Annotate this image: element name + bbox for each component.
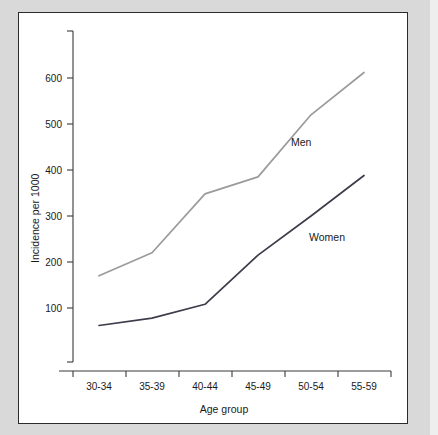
x-tick-label-55-59: 55-59 <box>351 381 377 392</box>
series-annotation-women: Women <box>309 231 345 243</box>
y-tick-label-300: 300 <box>45 211 62 222</box>
series-line-women <box>99 176 364 326</box>
screenshot-page: 600 500 400 300 200 100 Incidence per 10… <box>0 0 438 435</box>
y-tick-label-100: 100 <box>45 303 62 314</box>
y-tick-label-200: 200 <box>45 257 62 268</box>
series-annotation-men: Men <box>291 136 312 148</box>
y-tick-label-500: 500 <box>45 119 62 130</box>
line-chart: 600 500 400 300 200 100 Incidence per 10… <box>19 13 407 423</box>
y-axis-title: Incidence per 1000 <box>29 174 41 263</box>
x-tick-label-35-39: 35-39 <box>139 381 165 392</box>
series-line-men <box>99 73 364 276</box>
y-tick-label-600: 600 <box>45 73 62 84</box>
y-tick-label-400: 400 <box>45 165 62 176</box>
x-axis-title: Age group <box>200 403 249 415</box>
page-right-edge <box>430 0 438 435</box>
x-axis-ticks <box>73 371 391 377</box>
chart-figure-panel: 600 500 400 300 200 100 Incidence per 10… <box>18 12 408 424</box>
x-tick-label-45-49: 45-49 <box>245 381 271 392</box>
x-tick-label-50-54: 50-54 <box>298 381 324 392</box>
x-tick-label-40-44: 40-44 <box>192 381 218 392</box>
y-axis-ticks <box>67 78 73 308</box>
x-tick-label-30-34: 30-34 <box>86 381 112 392</box>
